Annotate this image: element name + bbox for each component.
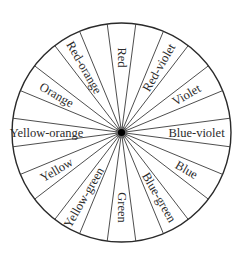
sector-label-yellow-orange: Yellow-orange xyxy=(10,126,84,140)
sector-label-red: Red xyxy=(115,47,129,68)
hub-center-dot xyxy=(118,129,125,136)
sector-label-blue-violet: Blue-violet xyxy=(168,126,225,140)
color-wheel: RedRed-violetVioletBlue-violetBlueBlue-g… xyxy=(0,0,243,255)
sector-label-green: Green xyxy=(115,192,129,223)
